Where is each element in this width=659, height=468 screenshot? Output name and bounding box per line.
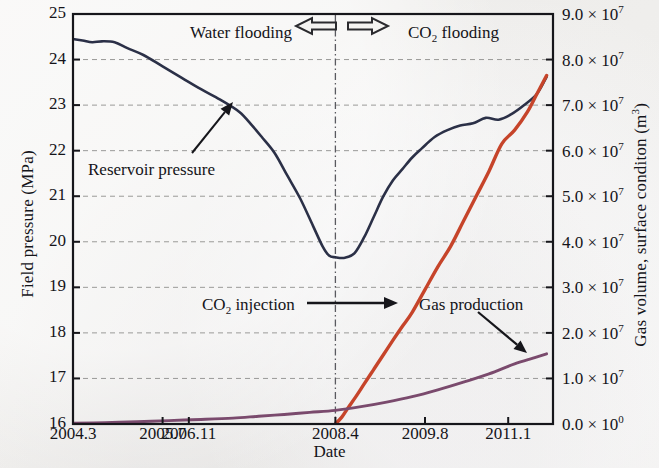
plot-canvas — [0, 0, 659, 468]
tick-base: 10 — [601, 232, 618, 251]
multiplication-sign-icon: × — [588, 187, 598, 206]
tick-exponent: 7 — [618, 49, 624, 61]
multiplication-sign-icon: × — [588, 5, 598, 24]
y-left-tick-24: 24 — [16, 49, 66, 69]
co2-prefix: CO — [408, 23, 432, 42]
y-right-tick-9: 9.0 × 107 — [562, 3, 624, 25]
tick-mantissa: 2.0 — [562, 324, 583, 343]
co2-flooding-rest: flooding — [437, 23, 499, 42]
y-right-tick-1: 1.0 × 107 — [562, 367, 624, 389]
annotation-co2-injection: CO2 injection — [202, 295, 295, 316]
tick-base: 10 — [601, 50, 618, 69]
annotation-co2-flooding: CO2 flooding — [408, 23, 499, 44]
tick-mantissa: 4.0 — [562, 232, 583, 251]
multiplication-sign-icon: × — [588, 50, 598, 69]
multiplication-sign-icon: × — [588, 96, 598, 115]
tick-exponent: 7 — [618, 231, 624, 243]
tick-mantissa: 5.0 — [562, 187, 583, 206]
multiplication-sign-icon: × — [588, 141, 598, 160]
y-left-tick-23: 23 — [16, 94, 66, 114]
co2-injection-arrow — [307, 297, 398, 309]
co2-injection-rest: injection — [231, 295, 295, 314]
y-left-tick-25: 25 — [16, 3, 66, 23]
annotation-water-flooding: Water flooding — [190, 23, 292, 43]
arrow-right-hollow-icon — [348, 18, 388, 34]
y-left-tick-20: 20 — [16, 231, 66, 251]
y-right-tick-8: 8.0 × 107 — [562, 49, 624, 71]
tick-mantissa: 6.0 — [562, 141, 583, 160]
multiplication-sign-icon: × — [588, 278, 598, 297]
tick-exponent: 7 — [618, 140, 624, 152]
tick-base: 10 — [601, 187, 618, 206]
y-axis-right-title-exponent: 3 — [629, 109, 641, 115]
tick-mantissa: 8.0 — [562, 50, 583, 69]
tick-exponent: 7 — [618, 185, 624, 197]
tick-mantissa: 0.0 — [562, 415, 583, 434]
tick-mantissa: 1.0 — [562, 369, 583, 388]
annotation-gas-production: Gas production — [419, 295, 523, 315]
co2-prefix: CO — [202, 295, 226, 314]
y-right-tick-3: 3.0 × 107 — [562, 276, 624, 298]
data-series-layer — [73, 39, 547, 424]
y-axis-right-title-tail: ) — [631, 103, 650, 109]
tick-exponent: 7 — [618, 3, 624, 15]
y-right-tick-0: 0.0 × 100 — [562, 413, 624, 435]
y-left-tick-18: 18 — [16, 322, 66, 342]
tick-mantissa: 9.0 — [562, 5, 583, 24]
tick-base: 10 — [601, 415, 618, 434]
annotation-reservoir-pressure: Reservoir pressure — [88, 160, 215, 180]
y-axis-right-title-lead: Gas volume, surface conditon (m — [631, 114, 650, 346]
x-tick-2006.11: 2006.11 — [134, 424, 244, 444]
tick-base: 10 — [601, 324, 618, 343]
flooding-direction-arrows — [296, 18, 388, 34]
y-left-tick-21: 21 — [16, 185, 66, 205]
series-line-co2-injection — [335, 76, 546, 425]
y-right-tick-2: 2.0 × 107 — [562, 322, 624, 344]
y-left-tick-19: 19 — [16, 276, 66, 296]
y-right-tick-5: 5.0 × 107 — [562, 185, 624, 207]
y-right-tick-7: 7.0 × 107 — [562, 94, 624, 116]
tick-mantissa: 3.0 — [562, 278, 583, 297]
plot-frame — [73, 14, 553, 424]
tick-base: 10 — [601, 96, 618, 115]
chart-figure: Field pressure (MPa) Gas volume, surface… — [0, 0, 659, 468]
x-axis-title: Date — [0, 442, 659, 462]
y-left-tick-22: 22 — [16, 140, 66, 160]
arrow-left-hollow-icon — [296, 18, 336, 34]
y-left-tick-17: 17 — [16, 367, 66, 387]
horizontal-gridlines — [74, 60, 552, 379]
y-right-tick-4: 4.0 × 107 — [562, 231, 624, 253]
tick-mantissa: 7.0 — [562, 96, 583, 115]
reservoir-pressure-arrow — [192, 102, 233, 153]
y-axis-right-title: Gas volume, surface conditon (m3) — [629, 100, 651, 350]
y-right-tick-6: 6.0 × 107 — [562, 140, 624, 162]
tick-base: 10 — [601, 5, 618, 24]
series-line-reservoir-pressure — [73, 39, 547, 258]
multiplication-sign-icon: × — [588, 369, 598, 388]
tick-exponent: 7 — [618, 94, 624, 106]
tick-exponent: 0 — [618, 413, 624, 425]
tick-base: 10 — [601, 278, 618, 297]
tick-base: 10 — [601, 141, 618, 160]
tick-base: 10 — [601, 369, 618, 388]
series-line-gas-production — [73, 354, 547, 423]
y-axis-left-title: Field pressure (MPa) — [18, 99, 38, 349]
multiplication-sign-icon: × — [588, 415, 598, 434]
multiplication-sign-icon: × — [588, 324, 598, 343]
x-tick-2011.1: 2011.1 — [453, 424, 563, 444]
multiplication-sign-icon: × — [588, 232, 598, 251]
tick-exponent: 7 — [618, 276, 624, 288]
tick-exponent: 7 — [618, 367, 624, 379]
tick-exponent: 7 — [618, 322, 624, 334]
